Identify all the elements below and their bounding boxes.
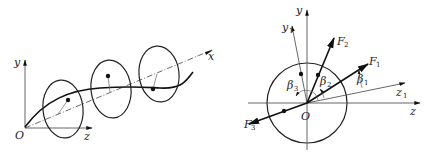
mass-dot-1 [66, 98, 70, 102]
label-origin: O [301, 110, 310, 123]
mass-dot-y1 [299, 72, 303, 76]
label-y1: y [281, 21, 289, 34]
label-F2-sub: 2 [344, 41, 348, 49]
label-beta2: β [319, 75, 326, 88]
label-beta3: β [286, 79, 293, 92]
label-beta1: β [356, 73, 363, 86]
label-F1-sub: 1 [376, 61, 380, 69]
eccentricity-3 [153, 74, 157, 89]
label-y: y [295, 4, 303, 17]
disc-1 [40, 78, 86, 140]
label-beta3-sub: 3 [294, 85, 298, 93]
diagram-canvas: y x z O y y 1 z z 1 O F 1 F 2 F 3 β 1 β [0, 0, 432, 158]
left-figure: y x z O [13, 44, 215, 143]
label-beta2-sub: 2 [327, 81, 331, 89]
label-origin: O [15, 129, 24, 142]
force-F3-arrow [249, 103, 307, 124]
label-z: z [409, 105, 416, 118]
label-z1-sub: 1 [403, 92, 407, 100]
right-figure: y y 1 z z 1 O F 1 F 2 F 3 β 1 β 2 β 3 [243, 4, 420, 150]
mass-dot-2 [106, 74, 110, 78]
mass-dot-3 [151, 87, 155, 91]
disc-3 [136, 44, 182, 104]
eccentricity-2 [108, 76, 110, 92]
mass-dot-F3 [282, 109, 286, 113]
label-beta1-sub: 1 [364, 79, 368, 87]
label-x: x [208, 50, 215, 63]
label-z1: z [395, 86, 402, 99]
label-y1-sub: 1 [289, 27, 293, 35]
label-z: z [83, 130, 90, 143]
label-F3-sub: 3 [251, 124, 255, 132]
label-y: y [13, 56, 21, 69]
